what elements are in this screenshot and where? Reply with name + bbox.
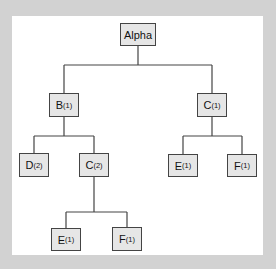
node-count: (1)	[65, 235, 74, 244]
node-label: E	[175, 160, 182, 172]
node-alpha: Alpha	[120, 23, 156, 46]
node-count: (1)	[241, 161, 250, 170]
node-label: E	[58, 234, 65, 246]
node-f1-bottom: F(1)	[112, 227, 142, 251]
node-c1: C(1)	[197, 93, 227, 117]
node-label: F	[119, 233, 126, 245]
node-c2: C(2)	[79, 153, 109, 177]
node-label: B	[56, 99, 63, 111]
node-count: (1)	[63, 101, 72, 110]
node-count: (1)	[211, 101, 220, 110]
node-e1-bottom: E(1)	[51, 228, 81, 251]
node-label: C	[203, 99, 211, 111]
node-f1-right: F(1)	[227, 154, 257, 177]
node-label: F	[234, 160, 241, 172]
node-b1: B(1)	[49, 93, 79, 117]
node-count: (1)	[182, 161, 191, 170]
node-count: (2)	[93, 161, 102, 170]
node-count: (2)	[33, 161, 42, 170]
node-d2: D(2)	[19, 153, 49, 177]
node-e1-right: E(1)	[168, 154, 198, 177]
node-count: (1)	[126, 235, 135, 244]
node-label: C	[85, 159, 93, 171]
node-label: D	[25, 159, 33, 171]
node-label: Alpha	[124, 29, 152, 41]
